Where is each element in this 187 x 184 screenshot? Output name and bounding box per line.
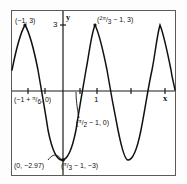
annotation-zero-mid-suffix: − 1, 0) bbox=[87, 119, 109, 126]
annotation-zero-mid-numerator: π bbox=[78, 117, 81, 124]
annotation-minimum-numerator: π bbox=[63, 160, 66, 167]
annotation-zero-mid: (π/2 − 1, 0) bbox=[76, 119, 109, 127]
plot-canvas bbox=[0, 0, 187, 184]
annotation-zero-left: (−1 + π/6, 0) bbox=[14, 96, 51, 104]
graph-figure: y x 3 1 (−1, 3) (2π/3 − 1, 3) (−1 + π/6,… bbox=[0, 0, 187, 184]
annotation-max-right: (2π/3 − 1, 3) bbox=[97, 16, 133, 24]
annotation-zero-left-suffix: , 0) bbox=[41, 96, 51, 103]
annotation-minimum-denominator: 3 bbox=[68, 164, 72, 171]
annotation-max-right-rest: − 1, 3) bbox=[111, 16, 133, 23]
x-axis-label: x bbox=[163, 93, 167, 103]
curve-cosine bbox=[12, 25, 175, 160]
point-max-right bbox=[93, 23, 96, 26]
y-tick-label-3: 3 bbox=[53, 20, 57, 29]
annotation-zero-left-denominator: 6 bbox=[37, 98, 41, 105]
annotation-max-right-denominator: 3 bbox=[108, 18, 112, 25]
annotation-zero-mid-denominator: 2 bbox=[83, 121, 87, 128]
annotation-minimum-suffix: − 1, −3) bbox=[72, 162, 98, 169]
annotation-max-right-numerator: 2π bbox=[99, 14, 106, 21]
annotation-minimum: (π/3 − 1, −3) bbox=[61, 162, 98, 170]
annotation-zero-left-numerator: π bbox=[32, 94, 35, 101]
leader-line-zero-mid bbox=[76, 92, 79, 118]
x-tick-label-1: 1 bbox=[94, 95, 98, 104]
annotation-zero-left-prefix: (−1 + bbox=[14, 96, 32, 103]
annotation-y-intercept: (0, −2.97) bbox=[14, 162, 44, 169]
annotation-max-left: (−1, 3) bbox=[15, 17, 35, 24]
y-axis-label: y bbox=[66, 12, 70, 22]
